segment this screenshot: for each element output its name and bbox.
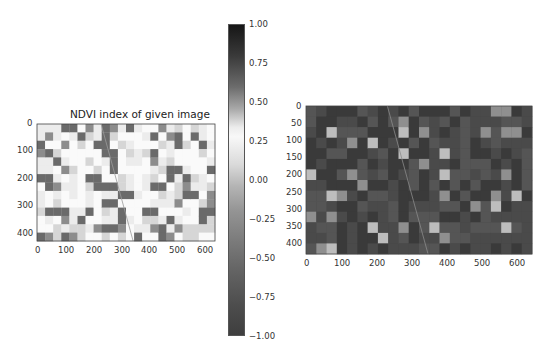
- right-ytick: 100: [286, 135, 302, 145]
- right-ytick: 300: [286, 204, 302, 214]
- right-xtick: 600: [509, 258, 525, 268]
- right-xtick: 300: [404, 258, 420, 268]
- left-ytick: 400: [17, 228, 33, 238]
- right-xtick: 0: [304, 258, 309, 268]
- left-xtick: 400: [141, 245, 157, 255]
- right-xtick: 200: [369, 258, 385, 268]
- left-plot-title: NDVI index of given image: [70, 108, 210, 120]
- right-ytick: 200: [286, 169, 302, 179]
- right-xtick: 100: [334, 258, 350, 268]
- colorbar-tick: −0.50: [249, 253, 275, 263]
- left-ytick: 200: [17, 173, 33, 183]
- left-xtick: 300: [114, 245, 130, 255]
- left-xtick: 0: [35, 245, 40, 255]
- left-ytick: 300: [17, 200, 33, 210]
- colorbar-tick: −0.75: [249, 292, 275, 302]
- left-ytick: 0: [27, 118, 32, 128]
- colorbar-tick: 0.75: [249, 58, 268, 68]
- left-ytick: 100: [17, 145, 33, 155]
- colorbar-tick: −1.00: [249, 331, 275, 341]
- right-ytick: 350: [286, 221, 302, 231]
- left-xtick: 100: [58, 245, 74, 255]
- right-ytick: 250: [286, 187, 302, 197]
- left-xtick: 600: [197, 245, 213, 255]
- left-xtick: 200: [86, 245, 102, 255]
- colorbar-tick: 0.00: [249, 175, 268, 185]
- right-ytick: 50: [291, 118, 302, 128]
- right-xtick: 400: [439, 258, 455, 268]
- satellite-image: [306, 106, 532, 254]
- colorbar: [228, 24, 245, 336]
- right-xtick: 500: [474, 258, 490, 268]
- left-xtick: 500: [169, 245, 185, 255]
- ndvi-image: [37, 124, 215, 241]
- colorbar-tick: 0.25: [249, 136, 268, 146]
- colorbar-tick: 0.50: [249, 97, 268, 107]
- right-ytick: 400: [286, 238, 302, 248]
- colorbar-tick: −0.25: [249, 214, 275, 224]
- right-ytick: 150: [286, 152, 302, 162]
- right-ytick: 0: [296, 101, 301, 111]
- colorbar-tick: 1.00: [249, 19, 268, 29]
